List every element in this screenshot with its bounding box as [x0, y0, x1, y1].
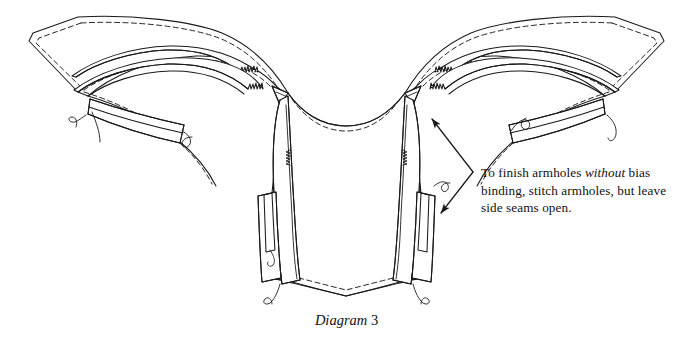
left-cuff-band [69, 99, 192, 147]
annotation-line1-pre: To finish armholes [481, 165, 585, 180]
caption-label: Diagram [315, 312, 367, 328]
annotation-leader [432, 119, 473, 213]
diagram-page: To finish armholes without bias binding,… [0, 0, 693, 348]
annotation-line1-italic: without [585, 165, 625, 180]
annotation-line2: binding, stitch armholes, but leave [481, 183, 666, 198]
annotation-line3: side seams open. [481, 200, 572, 215]
annotation-line1-post: bias [625, 165, 650, 180]
figure-caption: Diagram 3 [0, 312, 693, 329]
annotation-note: To finish armholes without bias binding,… [481, 164, 673, 217]
caption-number: 3 [371, 312, 378, 328]
right-cuff-band [509, 99, 616, 143]
